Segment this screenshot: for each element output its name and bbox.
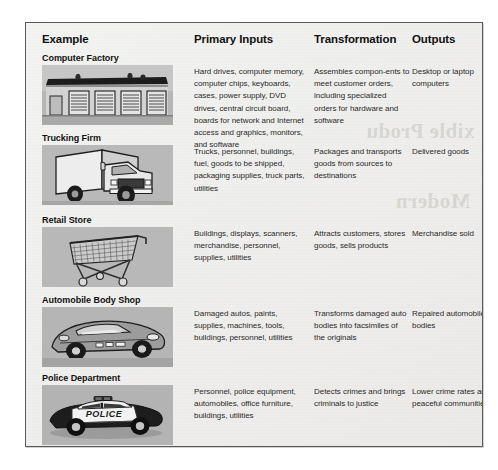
table-row: Automobile Body Shop xyxy=(42,295,472,373)
cell-primary-inputs: Buildings, displays, scanners, merchandi… xyxy=(194,228,308,265)
column-header-example: Example xyxy=(42,33,192,45)
column-header-outputs: Outputs xyxy=(412,33,483,45)
column-header-transformation: Transformation xyxy=(314,33,410,45)
cell-outputs: Desktop or laptop computers xyxy=(412,66,483,90)
cell-outputs: Lower crime rates and peaceful communiti… xyxy=(412,386,483,410)
row-label-retail-store: Retail Store xyxy=(42,215,91,225)
svg-text:POLICE: POLICE xyxy=(86,409,123,419)
row-label-automobile-body-shop: Automobile Body Shop xyxy=(42,295,141,305)
row-label-computer-factory: Computer Factory xyxy=(42,53,119,63)
scanned-page: xible Produ Modern Example Primary Input… xyxy=(25,22,483,447)
cell-transformation: Assembles compon-ents to meet customer o… xyxy=(314,66,410,127)
column-header-primary-inputs: Primary Inputs xyxy=(194,33,308,45)
organizations-as-systems-table: Example Primary Inputs Transformation Ou… xyxy=(26,23,482,447)
cell-transformation: Detects crimes and brings criminals to j… xyxy=(314,386,410,410)
sports-car-illustration xyxy=(42,307,173,367)
cell-transformation: Transforms damaged auto bodies into facs… xyxy=(314,308,410,345)
shopping-cart-illustration xyxy=(42,227,173,287)
computer-factory-illustration xyxy=(42,65,173,125)
table-row: Trucking Firm xyxy=(42,133,472,215)
table-row: Police Department xyxy=(42,373,472,447)
cell-transformation: Attracts customers, stores goods, sells … xyxy=(314,228,410,252)
cell-outputs: Repaired automobile bodies xyxy=(412,308,483,332)
cell-outputs: Merchandise sold xyxy=(412,228,483,240)
table-row: Retail Store xyxy=(42,215,472,295)
cell-primary-inputs: Personnel, police equipment, automobiles… xyxy=(194,386,308,423)
police-car-illustration: POLICE xyxy=(42,385,173,445)
delivery-truck-illustration xyxy=(42,145,173,205)
row-label-trucking-firm: Trucking Firm xyxy=(42,133,101,143)
table-row: Computer Factory xyxy=(42,53,472,133)
row-label-police-department: Police Department xyxy=(42,373,120,383)
cell-outputs: Delivered goods xyxy=(412,146,483,158)
cell-primary-inputs: Trucks, personnel, buildings, fuel, good… xyxy=(194,146,308,195)
cell-transformation: Packages and transports goods from sourc… xyxy=(314,146,410,183)
table-header-row: Example Primary Inputs Transformation Ou… xyxy=(42,33,472,53)
cell-primary-inputs: Damaged autos, paints, supplies, machine… xyxy=(194,308,308,345)
